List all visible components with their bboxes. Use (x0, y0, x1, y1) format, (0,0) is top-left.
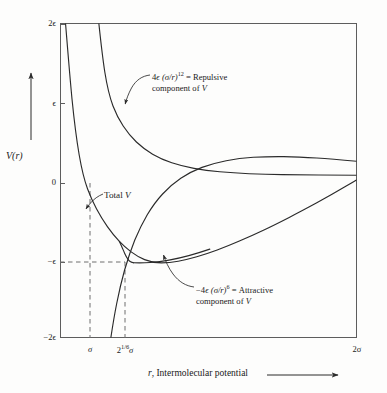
y-axis-label: V(r) (6, 150, 23, 161)
repulsive-epsilon: ϵ (156, 72, 159, 82)
series-description-attractive: −4ϵ (σ/r)6 = Attractive component of V (0, 0, 1, 1)
attractive-epsilon: ϵ (205, 285, 208, 295)
x-axis-label: r, Intermolecular potential (148, 368, 248, 378)
attractive-coefficient: −4 (196, 285, 205, 295)
attractive-ratio: (σ/r) (211, 285, 227, 295)
total-v-symbol: V (125, 190, 131, 200)
annotation-repulsive-line1: 4ϵ (σ/r)12 = Repulsive (152, 70, 227, 83)
x-tick-label-sigma: σ (88, 345, 92, 354)
repulsive-v-symbol: V (202, 83, 207, 93)
annotation-repulsive-line2: component of V (152, 83, 227, 95)
y-tick-mark-eps (60, 103, 65, 104)
attractive-exponent: 6 (226, 283, 229, 290)
annotation-repulsive: 4ϵ (σ/r)12 = Repulsive component of V (152, 70, 227, 95)
lennard-jones-potential-figure: 2ϵ ϵ 0 −ϵ −2ϵ σ 21/6σ 2σ V(r) r, Intermo… (0, 0, 387, 393)
x-tick-label-2-sixth-sigma: 21/6σ (117, 344, 134, 354)
y-tick-label-neg-2eps: −2ϵ (44, 333, 56, 342)
series-description-total: Total V (0, 0, 1, 1)
repulsive-component-of: component of (152, 83, 200, 93)
annotation-total-v: Total V (104, 189, 131, 201)
repulsive-equals: = Repulsive (186, 72, 227, 82)
y-tick-mark-zero (60, 183, 65, 184)
repulsive-ratio: (σ/r) (162, 72, 178, 82)
series-description-repulsive: 4ϵ (σ/r)12 = Repulsive component of V (0, 0, 1, 1)
total-label: Total (104, 190, 123, 200)
x-tick-label-2sigma: 2σ (353, 345, 362, 354)
y-tick-label-zero: 0 (52, 178, 56, 187)
y-tick-label-2eps: 2ϵ (48, 19, 56, 28)
annotation-attractive-line1: −4ϵ (σ/r)6 = Attractive (196, 283, 273, 296)
y-tick-label-neg-eps: −ϵ (48, 257, 56, 266)
x-tick-sigma: σ (129, 345, 133, 355)
y-tick-mark-2eps (60, 24, 65, 25)
annotation-attractive-line2: component of V (196, 296, 273, 308)
y-tick-label-eps: ϵ (53, 99, 56, 108)
annotation-attractive: −4ϵ (σ/r)6 = Attractive component of V (196, 283, 273, 308)
x-axis-label-text: , Intermolecular potential (152, 368, 248, 378)
attractive-equals: = Attractive (232, 285, 273, 295)
attractive-v-symbol: V (246, 296, 251, 306)
repulsive-exponent: 12 (178, 70, 184, 77)
attractive-component-of: component of (196, 296, 244, 306)
y-tick-mark-neg-eps (60, 262, 65, 263)
